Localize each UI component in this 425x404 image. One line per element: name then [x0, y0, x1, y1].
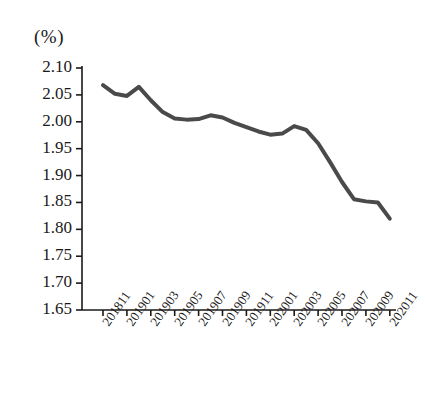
y-axis-tick-label: 1.65: [20, 299, 72, 319]
y-axis-tick-label: 1.75: [20, 245, 72, 265]
y-axis-tick-label: 2.05: [20, 84, 72, 104]
y-axis-tick-label: 1.70: [20, 272, 72, 292]
y-axis-tick-label: 1.90: [20, 165, 72, 185]
y-axis-tick-label: 1.80: [20, 218, 72, 238]
series-line-rate: [103, 85, 390, 218]
line-chart: (%) 2.102.052.001.951.901.851.801.751.70…: [0, 0, 425, 404]
y-axis-tick-label: 2.00: [20, 111, 72, 131]
y-axis-tick-label: 1.85: [20, 191, 72, 211]
y-axis-tick-label: 2.10: [20, 57, 72, 77]
y-axis-tick-label: 1.95: [20, 138, 72, 158]
data-series: [103, 85, 390, 218]
